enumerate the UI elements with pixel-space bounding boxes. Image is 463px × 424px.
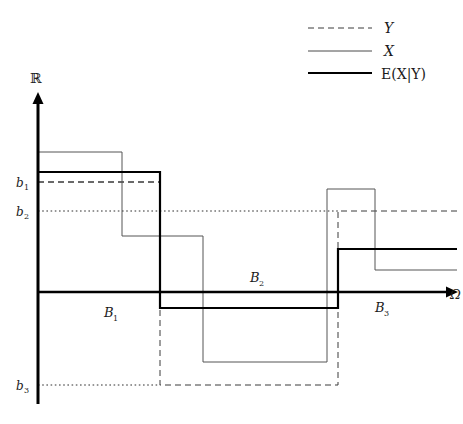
y-axis-label-reals: ℝ	[30, 70, 42, 86]
y-axis-arrowhead	[33, 92, 44, 104]
figure-canvas: Y X E(X|Y) Ω ℝ	[0, 0, 463, 424]
legend-label-conditional-expectation: E(X|Y)	[381, 66, 426, 83]
tick-label-b3-base: b	[16, 379, 24, 393]
x-axis-label-omega: Ω	[449, 287, 461, 302]
tick-label-b3-subscript: 3	[24, 386, 29, 395]
region-label-b3-base: B	[374, 300, 385, 315]
series-x	[38, 152, 457, 362]
reference-lines	[38, 182, 338, 385]
y-axis-tick-labels: b 1 b 2 b 3	[16, 176, 29, 395]
region-label-b3: B 3	[374, 300, 389, 318]
tick-label-b2-subscript: 2	[24, 212, 29, 221]
region-label-b1-base: B	[103, 305, 114, 320]
series-y-path	[38, 182, 457, 385]
region-label-b3-subscript: 3	[384, 309, 389, 318]
region-label-b2: B 2	[249, 270, 264, 288]
series-x-path	[38, 152, 457, 362]
legend-item-y: Y	[308, 20, 395, 36]
legend-label-x: X	[383, 43, 395, 59]
tick-label-b3: b 3	[16, 379, 29, 395]
legend: Y X E(X|Y)	[308, 20, 426, 83]
region-label-b2-base: B	[249, 270, 260, 285]
region-label-b1-subscript: 1	[113, 314, 118, 323]
tick-label-b2: b 2	[16, 205, 29, 221]
region-label-b2-subscript: 2	[259, 279, 264, 288]
conditional-expectation-figure: Y X E(X|Y) Ω ℝ	[0, 0, 463, 424]
legend-item-x: X	[308, 43, 395, 59]
tick-label-b1-base: b	[16, 176, 24, 190]
tick-label-b1: b 1	[16, 176, 29, 192]
series-conditional-expectation-path	[38, 172, 457, 308]
tick-label-b2-base: b	[16, 205, 24, 219]
series-conditional-expectation	[38, 172, 457, 308]
y-axis: ℝ	[30, 70, 44, 404]
tick-label-b1-subscript: 1	[24, 183, 29, 192]
legend-label-y: Y	[384, 20, 395, 36]
region-label-b1: B 1	[103, 305, 118, 323]
region-labels: B 1 B 2 B 3	[103, 270, 389, 323]
x-axis: Ω	[38, 287, 461, 303]
legend-item-conditional-expectation: E(X|Y)	[308, 66, 426, 83]
series-y	[38, 182, 457, 385]
